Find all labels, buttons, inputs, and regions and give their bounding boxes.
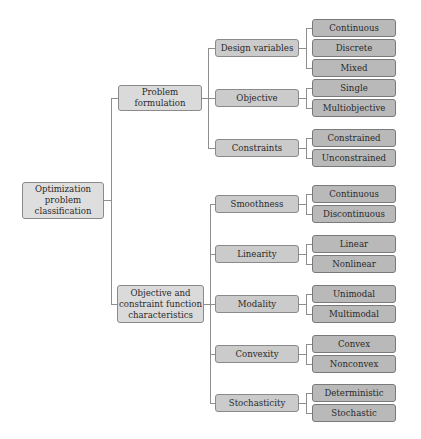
node-convexity: Convexity (215, 345, 299, 363)
leaf-discontinuous: Discontinuous (312, 205, 396, 223)
connector (306, 138, 307, 159)
node-objective: Objective (215, 89, 299, 107)
node-modality: Modality (215, 295, 299, 313)
leaf-multimodal: Multimodal (312, 305, 396, 323)
leaf-convex: Convex (312, 335, 396, 353)
classification-tree-diagram: Optimization problem classification Prob… (0, 0, 421, 439)
leaf-mixed: Mixed (312, 59, 396, 77)
leaf-discrete: Discrete (312, 39, 396, 57)
connector (111, 98, 118, 99)
leaf-continuous-smoothness: Continuous (312, 185, 396, 203)
connector (306, 393, 307, 414)
connector (208, 98, 215, 99)
node-linearity: Linearity (215, 245, 299, 263)
connector (306, 194, 307, 215)
node-root: Optimization problem classification (22, 182, 104, 219)
node-problem-formulation: Problem formulation (118, 85, 202, 111)
node-smoothness: Smoothness (215, 195, 299, 213)
connector (111, 98, 112, 305)
leaf-unimodal: Unimodal (312, 285, 396, 303)
connector (306, 88, 307, 109)
node-design-variables: Design variables (215, 39, 299, 57)
node-constraints: Constraints (215, 139, 299, 157)
leaf-unconstrained: Unconstrained (312, 149, 396, 167)
node-stochasticity: Stochasticity (215, 394, 299, 412)
leaf-linear: Linear (312, 235, 396, 253)
connector (208, 48, 215, 49)
connector (306, 294, 307, 315)
connector (306, 244, 307, 265)
connector (306, 344, 307, 365)
leaf-nonlinear: Nonlinear (312, 255, 396, 273)
node-objective-constraint-characteristics: Objective and constraint function charac… (117, 285, 204, 323)
leaf-continuous-variables: Continuous (312, 19, 396, 37)
connector (208, 148, 215, 149)
connector (306, 28, 307, 69)
leaf-deterministic: Deterministic (312, 384, 396, 402)
leaf-nonconvex: Nonconvex (312, 355, 396, 373)
leaf-multiobjective: Multiobjective (312, 99, 396, 117)
leaf-single: Single (312, 79, 396, 97)
leaf-stochastic: Stochastic (312, 404, 396, 422)
leaf-constrained: Constrained (312, 129, 396, 147)
